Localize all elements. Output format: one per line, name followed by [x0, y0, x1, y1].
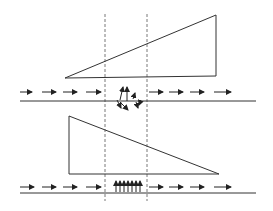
top-panel-disordered-flow [20, 15, 256, 110]
scattered-arrow-icon [120, 102, 128, 110]
flow-diagram [0, 0, 273, 211]
wedge-triangle-rising [65, 15, 216, 78]
scattered-arrow-icon [120, 87, 123, 100]
diagram-svg [0, 0, 273, 211]
scattered-arrow-icon [136, 102, 138, 108]
wedge-triangle-falling [69, 116, 219, 174]
bottom-panel-upward-flow [20, 116, 256, 193]
scattered-arrow-icon [133, 93, 135, 99]
